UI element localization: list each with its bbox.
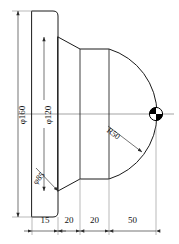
leader-phi85 <box>36 168 58 191</box>
center-quadrant-marker <box>149 107 162 120</box>
drawing-svg <box>0 0 179 244</box>
engineering-drawing-canvas: φ160 φ120 φ85 R50 15 20 20 50 <box>0 0 179 244</box>
leader-r50 <box>108 126 142 152</box>
